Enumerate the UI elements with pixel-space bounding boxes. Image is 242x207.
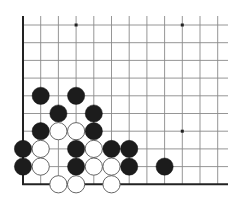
black-stone — [14, 158, 31, 175]
black-stone — [85, 105, 102, 122]
black-stone — [68, 140, 85, 157]
black-stone — [68, 158, 85, 175]
white-stone — [85, 158, 102, 175]
star-point-icon — [181, 24, 184, 27]
black-stone — [68, 87, 85, 104]
white-stone — [103, 176, 120, 193]
white-stone — [32, 158, 49, 175]
star-point-icon — [75, 24, 78, 27]
white-stone — [85, 140, 102, 157]
black-stone — [14, 140, 31, 157]
white-stone — [68, 176, 85, 193]
go-board — [0, 0, 242, 207]
white-stone — [32, 140, 49, 157]
black-stone — [32, 87, 49, 104]
white-stone — [68, 123, 85, 140]
black-stone — [50, 105, 67, 122]
white-stone — [103, 158, 120, 175]
black-stone — [121, 158, 138, 175]
black-stone — [85, 123, 102, 140]
black-stone — [103, 140, 120, 157]
white-stone — [50, 123, 67, 140]
star-point-icon — [181, 130, 184, 133]
white-stone — [50, 176, 67, 193]
black-stone — [121, 140, 138, 157]
black-stone — [32, 123, 49, 140]
black-stone — [156, 158, 173, 175]
